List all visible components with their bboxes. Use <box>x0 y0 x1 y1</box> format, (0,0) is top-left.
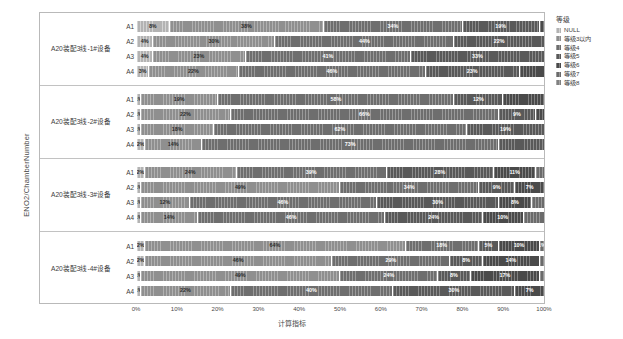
bar-row[interactable]: A43%22%46%23% <box>122 64 544 79</box>
legend-item[interactable]: 等级8 <box>556 80 618 86</box>
stacked-bar[interactable]: 1%49%24%8%17% <box>137 271 544 282</box>
bar-row[interactable]: A31%12%46%30%8% <box>122 195 544 210</box>
bar-segment[interactable]: 24% <box>385 212 483 223</box>
bar-segment[interactable]: 34% <box>340 182 478 193</box>
bar-segment[interactable]: 22% <box>141 109 231 120</box>
bar-segment[interactable]: 2% <box>137 241 145 252</box>
bar-segment[interactable]: 19% <box>463 21 540 32</box>
bar-segment[interactable]: 7% <box>515 182 543 193</box>
stacked-bar[interactable]: 1%18%62%19% <box>137 124 544 135</box>
bar-segment[interactable]: 46% <box>190 197 377 208</box>
bar-segment[interactable] <box>540 21 544 32</box>
stacked-bar[interactable]: 2%24%39%28%11% <box>137 167 544 178</box>
bar-segment[interactable]: 22% <box>149 66 239 77</box>
bar-segment[interactable]: 49% <box>141 182 340 193</box>
bar-segment[interactable]: 17% <box>471 271 540 282</box>
bar-segment[interactable]: 18% <box>141 124 214 135</box>
stacked-bar[interactable]: 1%19%58%12% <box>137 94 544 105</box>
bar-segment[interactable]: 44% <box>275 36 454 47</box>
bar-row[interactable]: A31%49%24%8%17% <box>122 269 544 284</box>
stacked-bar[interactable]: 1%22%66%9% <box>137 109 544 120</box>
bar-segment[interactable]: 23% <box>426 66 520 77</box>
bar-segment[interactable]: 2% <box>137 256 145 267</box>
bar-segment[interactable]: 7% <box>515 286 543 297</box>
legend-item[interactable]: NULL <box>556 27 618 33</box>
stacked-bar[interactable]: 1%14%46%24%10% <box>137 212 544 223</box>
bar-segment[interactable]: 29% <box>332 256 450 267</box>
bar-segment[interactable]: 11% <box>494 167 536 178</box>
bar-segment[interactable]: 62% <box>214 124 466 135</box>
bar-segment[interactable]: 33% <box>411 51 544 62</box>
bar-segment[interactable] <box>540 256 544 267</box>
bar-segment[interactable]: 46% <box>198 212 385 223</box>
bar-segment[interactable]: 9% <box>479 182 516 193</box>
bar-segment[interactable]: 8% <box>137 21 170 32</box>
legend-item[interactable]: 等级6 <box>556 62 618 68</box>
bar-segment[interactable]: 64% <box>145 241 405 252</box>
bar-segment[interactable]: 30% <box>393 286 515 297</box>
bar-segment[interactable]: 10% <box>499 241 540 252</box>
bar-segment[interactable] <box>524 212 544 223</box>
bar-segment[interactable]: 22% <box>454 36 544 47</box>
bar-row[interactable]: A11%19%58%12% <box>122 92 544 107</box>
bar-segment[interactable]: 14% <box>483 256 540 267</box>
bar-segment[interactable] <box>536 109 544 120</box>
bar-segment[interactable]: 28% <box>387 167 495 178</box>
stacked-bar[interactable]: 1%12%46%30%8% <box>137 197 544 208</box>
bar-segment[interactable]: 34% <box>324 21 462 32</box>
bar-row[interactable]: A22%46%29%8%14% <box>122 254 544 269</box>
bar-segment[interactable]: 22% <box>141 286 231 297</box>
bar-segment[interactable]: 66% <box>231 109 500 120</box>
bar-segment[interactable] <box>532 197 544 208</box>
bar-segment[interactable]: 14% <box>145 139 202 150</box>
bar-segment[interactable]: 23% <box>153 51 246 62</box>
stacked-bar[interactable]: 1%49%34%9%7% <box>137 182 544 193</box>
bar-segment[interactable] <box>499 139 544 150</box>
bar-segment[interactable]: 39% <box>237 167 387 178</box>
bar-segment[interactable]: 40% <box>231 286 394 297</box>
legend-item[interactable]: 等级4 <box>556 45 618 51</box>
bar-segment[interactable]: 8% <box>499 197 532 208</box>
bar-segment[interactable] <box>536 167 544 178</box>
bar-segment[interactable]: 49% <box>141 271 340 282</box>
bar-row[interactable]: A18%38%34%19% <box>122 19 544 34</box>
bar-segment[interactable]: 2% <box>137 167 145 178</box>
legend-item[interactable]: 等级3以内 <box>556 36 618 42</box>
bar-segment[interactable]: 8% <box>450 256 483 267</box>
stacked-bar[interactable]: 1%22%40%30%7% <box>137 286 544 297</box>
bar-segment[interactable]: 2% <box>137 139 145 150</box>
bar-segment[interactable]: 9% <box>499 109 536 120</box>
bar-row[interactable]: A41%22%40%30%7% <box>122 284 544 299</box>
bar-segment[interactable]: 12% <box>141 197 190 208</box>
bar-segment[interactable]: 58% <box>218 94 454 105</box>
stacked-bar[interactable]: 8%38%34%19% <box>137 21 544 32</box>
bar-segment[interactable]: 73% <box>202 139 499 150</box>
stacked-bar[interactable]: 3%22%46%23% <box>137 66 544 77</box>
bar-row[interactable]: A24%30%44%22% <box>122 34 544 49</box>
bar-row[interactable]: A41%14%46%24%10% <box>122 210 544 225</box>
bar-segment[interactable]: 19% <box>141 94 218 105</box>
stacked-bar[interactable]: 2%46%29%8%14% <box>137 256 544 267</box>
bar-segment[interactable]: 4% <box>137 36 153 47</box>
legend-item[interactable]: 等级7 <box>556 71 618 77</box>
bar-segment[interactable]: 24% <box>145 167 237 178</box>
bar-segment[interactable]: 12% <box>454 94 503 105</box>
bar-row[interactable]: A42%14%73% <box>122 137 544 152</box>
bar-segment[interactable]: 46% <box>239 66 426 77</box>
bar-segment[interactable]: 24% <box>340 271 438 282</box>
bar-segment[interactable]: 3% <box>137 66 149 77</box>
bar-row[interactable]: A21%22%66%9% <box>122 107 544 122</box>
bar-segment[interactable]: 10% <box>483 212 524 223</box>
bar-segment[interactable]: 30% <box>377 197 499 208</box>
bar-segment[interactable] <box>503 94 544 105</box>
stacked-bar[interactable]: 2%14%73% <box>137 139 544 150</box>
bar-segment[interactable]: 1% <box>540 241 544 252</box>
stacked-bar[interactable]: 4%23%41%33% <box>137 51 544 62</box>
bar-row[interactable]: A31%18%62%19% <box>122 122 544 137</box>
bar-segment[interactable]: 19% <box>467 124 544 135</box>
stacked-bar[interactable]: 2%64%18%5%10%1% <box>137 241 544 252</box>
bar-segment[interactable]: 46% <box>145 256 332 267</box>
bar-segment[interactable]: 38% <box>170 21 325 32</box>
bar-segment[interactable] <box>520 66 544 77</box>
bar-segment[interactable]: 4% <box>137 51 153 62</box>
